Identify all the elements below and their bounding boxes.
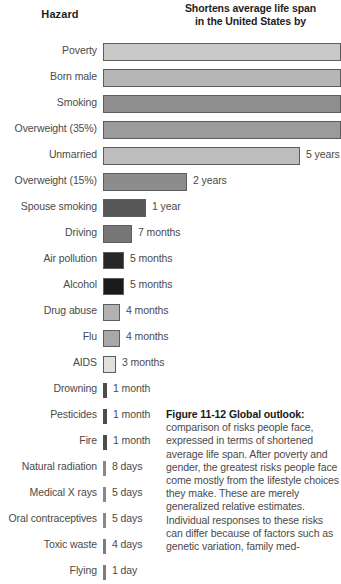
hazard-bar xyxy=(103,330,120,347)
hazard-label: Overweight (15%) xyxy=(0,174,97,186)
hazard-label: Medical X rays xyxy=(0,486,97,498)
lifespan-header-line2: in the United States by xyxy=(160,15,341,28)
hazard-label: Flu xyxy=(0,330,97,342)
hazard-label: Oral contraceptives xyxy=(0,512,97,524)
chart-row: Flying1 day xyxy=(0,560,341,584)
bar-value-label: 1 month xyxy=(113,382,150,394)
hazard-bar xyxy=(103,304,120,321)
hazard-bar xyxy=(103,539,106,554)
hazard-bar xyxy=(103,513,106,528)
hazard-bar xyxy=(103,95,341,113)
hazard-bar xyxy=(103,121,341,139)
hazard-label: Drug abuse xyxy=(0,304,97,316)
hazard-label: Drowning xyxy=(0,382,97,394)
chart-row: Air pollution5 months xyxy=(0,248,341,274)
chart-row: Unmarried5 years xyxy=(0,144,341,170)
bar-value-label: 1 month xyxy=(113,434,150,446)
hazard-label: Pesticides xyxy=(0,408,97,420)
bar-value-label: 8 days xyxy=(112,460,142,472)
hazard-label: Flying xyxy=(0,564,97,576)
hazard-label: Fire xyxy=(0,434,97,446)
bar-value-label: 2 years xyxy=(193,174,227,186)
bar-value-label: 5 years xyxy=(306,148,340,160)
hazard-label: Driving xyxy=(0,226,97,238)
chart-row: Overweight (35%) xyxy=(0,118,341,144)
chart-row: AIDS3 months xyxy=(0,352,341,378)
bar-value-label: 5 months xyxy=(130,278,172,290)
bar-value-label: 7 months xyxy=(138,226,180,238)
hazard-bar xyxy=(103,43,341,61)
hazard-label: Air pollution xyxy=(0,252,97,264)
hazard-label: Spouse smoking xyxy=(0,200,97,212)
hazard-bar xyxy=(103,383,107,398)
hazard-bar xyxy=(103,225,132,243)
chart-row: Driving7 months xyxy=(0,222,341,248)
chart-row: Smoking xyxy=(0,92,341,118)
figure-caption-body: comparison of risks people face, express… xyxy=(166,421,339,552)
bar-value-label: 5 days xyxy=(112,486,142,498)
hazard-bar xyxy=(103,565,106,580)
figure-caption: Figure 11-12 Global outlook: comparison … xyxy=(166,408,341,553)
hazard-label: Unmarried xyxy=(0,148,97,160)
hazard-label: AIDS xyxy=(0,356,97,368)
hazard-label: Natural radiation xyxy=(0,460,97,472)
hazard-label: Overweight (35%) xyxy=(0,122,97,134)
bar-value-label: 1 month xyxy=(113,408,150,420)
bar-value-label: 1 year xyxy=(152,200,181,212)
hazard-label: Poverty xyxy=(0,44,97,56)
hazard-label: Smoking xyxy=(0,96,97,108)
chart-row: Spouse smoking1 year xyxy=(0,196,341,222)
hazard-bar xyxy=(103,487,106,502)
bar-value-label: 4 months xyxy=(126,304,168,316)
chart-row: Poverty xyxy=(0,40,341,66)
chart-row: Drug abuse4 months xyxy=(0,300,341,326)
hazard-bar xyxy=(103,461,106,476)
hazard-bar xyxy=(103,147,300,165)
hazard-bar xyxy=(103,199,146,217)
figure-caption-title: Figure 11-12 Global outlook: xyxy=(166,408,304,420)
hazard-label: Toxic waste xyxy=(0,538,97,550)
bar-value-label: 4 months xyxy=(126,330,168,342)
hazard-bar xyxy=(103,435,107,450)
lifespan-column-header: Shortens average life span in the United… xyxy=(160,2,341,28)
bar-value-label: 4 days xyxy=(112,538,142,550)
chart-row: Flu4 months xyxy=(0,326,341,352)
hazard-bar xyxy=(103,173,187,191)
hazard-bar xyxy=(103,278,124,295)
bar-value-label: 5 months xyxy=(130,252,172,264)
bar-value-label: 1 day xyxy=(112,564,137,576)
hazard-bar xyxy=(103,69,341,87)
chart-row: Drowning1 month xyxy=(0,378,341,404)
bar-value-label: 3 months xyxy=(122,356,164,368)
hazard-label: Born male xyxy=(0,70,97,82)
hazard-column-header: Hazard xyxy=(0,8,120,20)
hazard-bar xyxy=(103,409,107,424)
chart-header: Hazard Shortens average life span in the… xyxy=(0,0,341,40)
hazard-bar xyxy=(103,252,124,269)
lifespan-header-line1: Shortens average life span xyxy=(185,2,316,14)
chart-row: Born male xyxy=(0,66,341,92)
chart-row: Overweight (15%)2 years xyxy=(0,170,341,196)
hazard-bar xyxy=(103,356,116,373)
bar-value-label: 5 days xyxy=(112,512,142,524)
hazard-label: Alcohol xyxy=(0,278,97,290)
chart-row: Alcohol5 months xyxy=(0,274,341,300)
